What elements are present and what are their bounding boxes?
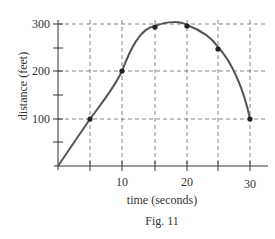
data-point [184, 23, 189, 28]
y-tick-label-100: 100 [32, 112, 50, 126]
axes [53, 20, 268, 171]
y-tick-label-300: 300 [32, 17, 50, 31]
figure-caption: Fig. 11 [145, 214, 179, 228]
data-point [247, 116, 252, 121]
data-point [215, 46, 220, 51]
distance-curve [58, 22, 250, 166]
y-axis-label: distance (feet) [16, 52, 30, 120]
x-tick-label-30: 30 [244, 177, 256, 191]
y-tick-label-200: 200 [32, 64, 50, 78]
data-point [152, 24, 157, 29]
data-points [87, 23, 252, 121]
x-tick-label-10: 10 [116, 175, 128, 189]
gridlines [58, 20, 268, 166]
data-point [119, 68, 124, 73]
chart: 300 200 100 10 20 30 time (seconds) dist… [0, 0, 275, 239]
x-tick-label-20: 20 [181, 175, 193, 189]
data-point [87, 116, 92, 121]
x-axis-label: time (seconds) [127, 193, 197, 207]
